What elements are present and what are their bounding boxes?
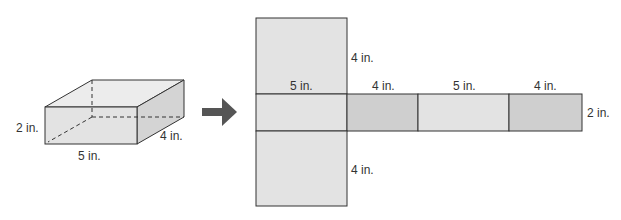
net-bottom-side-label: 4 in. xyxy=(351,163,374,177)
net-bottom-face xyxy=(256,131,347,206)
prism-height-label: 2 in. xyxy=(16,121,39,135)
net-strip-label-2: 4 in. xyxy=(372,79,395,93)
prism-net: 4 in. 5 in. 4 in. 5 in. 4 in. 2 in. 4 in… xyxy=(256,18,610,206)
diagram-canvas: 2 in. 5 in. 4 in. 4 in. 5 in. 4 in. 5 in… xyxy=(0,0,621,220)
rectangular-prism: 2 in. 5 in. 4 in. xyxy=(16,80,184,163)
net-strip-label-1: 5 in. xyxy=(290,79,313,93)
net-strip-height-label: 2 in. xyxy=(587,106,610,120)
net-front-face xyxy=(256,94,347,131)
prism-front-face xyxy=(45,107,137,144)
net-back-face xyxy=(418,94,509,131)
right-arrow-icon xyxy=(202,98,237,126)
prism-length-label: 5 in. xyxy=(78,149,101,163)
net-top-side-label: 4 in. xyxy=(351,51,374,65)
net-strip-label-3: 5 in. xyxy=(453,79,476,93)
net-strip-label-4: 4 in. xyxy=(534,79,557,93)
net-left-face xyxy=(509,94,582,131)
net-right-face xyxy=(347,94,418,131)
prism-width-label: 4 in. xyxy=(160,129,183,143)
